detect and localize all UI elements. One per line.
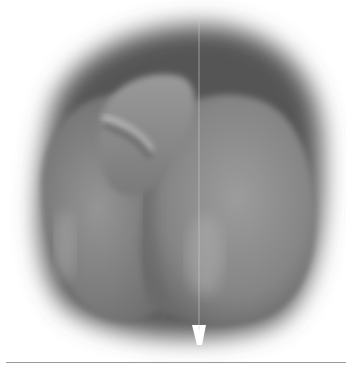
illustration — [0, 0, 346, 365]
organ-illustration — [0, 0, 346, 365]
bottom-rule — [6, 362, 346, 363]
